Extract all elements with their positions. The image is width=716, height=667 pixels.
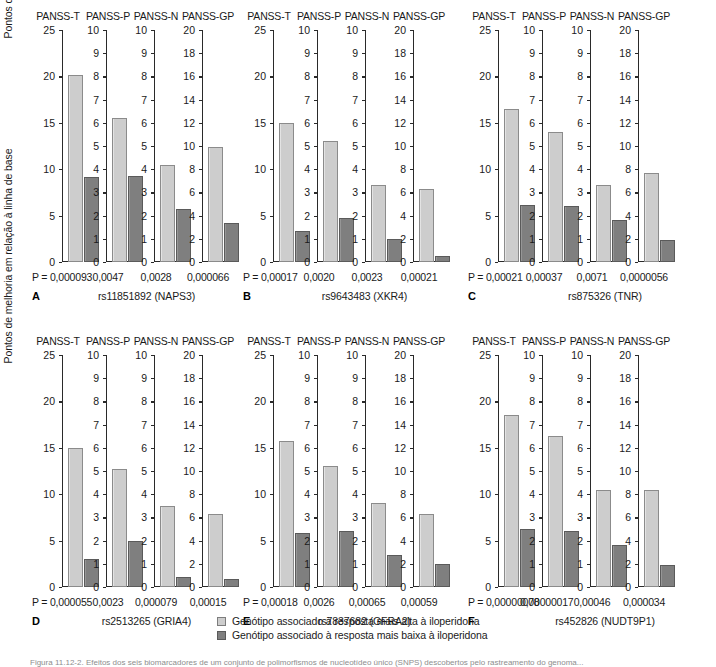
y-tick-label: 15	[254, 118, 266, 129]
y-tick-label: 3	[304, 512, 310, 523]
y-tick-label: 5	[529, 141, 535, 152]
y-tick	[270, 169, 274, 170]
bar-hi	[160, 165, 175, 262]
y-tick	[103, 401, 107, 402]
y-tick	[151, 587, 155, 588]
y-tick	[410, 517, 414, 518]
y-tick	[410, 541, 414, 542]
y-tick-label: 10	[394, 141, 406, 152]
y-tick-label: 5	[260, 535, 266, 546]
y-tick-label: 18	[394, 373, 406, 384]
panel-letter-b: B	[243, 290, 251, 302]
y-tick-label: 0	[304, 257, 310, 268]
y-tick-label: 4	[400, 210, 406, 221]
y-axis-line	[202, 30, 203, 262]
y-tick-label: 10	[346, 350, 358, 361]
subplot-title-panss-p: PANSS-P	[520, 335, 568, 347]
y-tick-label: 10	[523, 350, 535, 361]
panel-letter-a: A	[32, 290, 40, 302]
y-tick	[103, 355, 107, 356]
bar-hi	[419, 514, 434, 587]
y-tick-label: 18	[619, 48, 631, 59]
subplot-panss-p: 012345678910	[84, 30, 132, 262]
legend-item-lo: Genótipo associado à resposta mais baixa…	[0, 628, 716, 642]
subplot-panss-p: 012345678910	[295, 30, 343, 262]
y-tick	[59, 541, 63, 542]
y-tick-label: 5	[352, 466, 358, 477]
y-tick-label: 8	[304, 396, 310, 407]
y-tick	[199, 169, 203, 170]
y-tick-label: 12	[183, 118, 195, 129]
y-tick	[410, 239, 414, 240]
y-tick	[59, 448, 63, 449]
y-tick	[362, 192, 366, 193]
y-tick-label: 8	[577, 71, 583, 82]
y-tick	[410, 53, 414, 54]
subplot-title-panss-n: PANSS-N	[568, 335, 616, 347]
y-tick-label: 5	[141, 466, 147, 477]
y-tick-label: 10	[479, 489, 491, 500]
p-value: 0,0020	[295, 271, 343, 283]
y-tick-label: 20	[43, 71, 55, 82]
y-tick	[635, 216, 639, 217]
subplot-title-panss-gp: PANSS-GP	[391, 335, 447, 347]
y-tick-label: 16	[394, 71, 406, 82]
y-tick	[362, 239, 366, 240]
y-tick-label: 2	[529, 210, 535, 221]
y-tick	[587, 378, 591, 379]
subplot-title-row: PANSS-TPANSS-PPANSS-NPANSS-GP	[468, 335, 672, 347]
y-tick	[314, 448, 318, 449]
subplot-title-panss-p: PANSS-P	[295, 10, 343, 22]
y-tick-label: 2	[577, 535, 583, 546]
y-tick	[495, 355, 499, 356]
y-tick	[103, 123, 107, 124]
subplot-panss-p: 012345678910	[84, 355, 132, 587]
y-tick-label: 6	[352, 443, 358, 454]
y-axis-line	[413, 30, 414, 262]
subplot-panss-p: 012345678910	[520, 355, 568, 587]
bar-hi	[208, 514, 223, 587]
y-tick-label: 9	[141, 373, 147, 384]
subplot-title-panss-t: PANSS-T	[243, 10, 295, 22]
y-tick-label: 3	[577, 512, 583, 523]
y-tick	[103, 239, 107, 240]
y-tick-label: 20	[43, 396, 55, 407]
y-tick-label: 2	[93, 210, 99, 221]
y-tick-label: 6	[93, 118, 99, 129]
y-tick-label: 7	[577, 419, 583, 430]
y-tick	[635, 123, 639, 124]
y-tick	[314, 100, 318, 101]
y-tick	[59, 76, 63, 77]
panel-e: PANSS-TPANSS-PPANSS-NPANSS-GP05101520250…	[235, 325, 460, 647]
subplot-title-panss-n: PANSS-N	[132, 10, 180, 22]
y-tick	[410, 123, 414, 124]
y-tick-label: 6	[529, 118, 535, 129]
subplot-title-panss-t: PANSS-T	[32, 10, 84, 22]
y-tick-label: 3	[577, 187, 583, 198]
y-tick	[362, 471, 366, 472]
y-tick	[362, 517, 366, 518]
y-tick	[635, 239, 639, 240]
y-tick-label: 0	[49, 257, 55, 268]
y-tick-label: 6	[189, 512, 195, 523]
y-tick	[151, 239, 155, 240]
y-tick	[410, 216, 414, 217]
y-axis-line	[317, 355, 318, 587]
y-tick-label: 6	[577, 118, 583, 129]
subplot-panss-n: 012345678910	[568, 30, 616, 262]
y-tick	[635, 541, 639, 542]
y-tick-label: 20	[479, 396, 491, 407]
y-tick-label: 6	[141, 443, 147, 454]
y-tick-label: 0	[304, 582, 310, 593]
p-value: 0,00015	[180, 596, 236, 608]
y-tick	[199, 378, 203, 379]
subplot-title-panss-gp: PANSS-GP	[391, 10, 447, 22]
y-tick	[199, 471, 203, 472]
p-value-row: P = 0,0000550,00230,0000790,00015	[32, 596, 236, 608]
y-tick	[199, 100, 203, 101]
y-tick-label: 8	[93, 396, 99, 407]
y-tick-label: 6	[577, 443, 583, 454]
y-tick	[270, 30, 274, 31]
bar-lo	[660, 240, 675, 262]
y-tick	[199, 76, 203, 77]
